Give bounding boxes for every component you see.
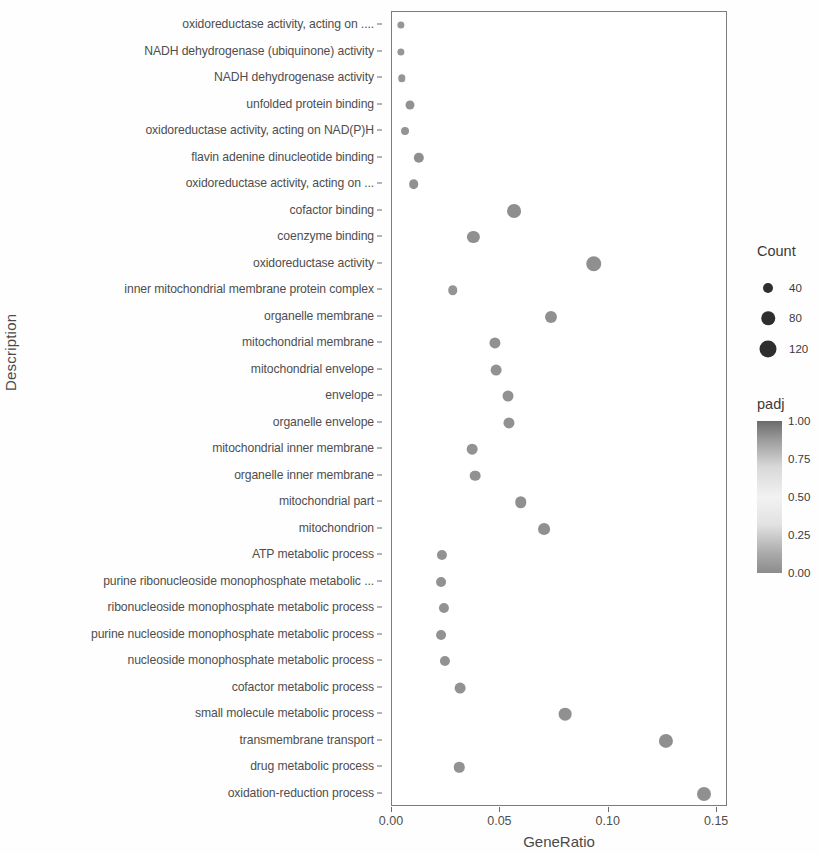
data-point xyxy=(467,231,479,243)
data-point xyxy=(414,153,424,163)
data-point xyxy=(448,285,458,295)
y-axis-tick-label: mitochondrial inner membrane xyxy=(212,441,374,455)
y-axis-tick-mark xyxy=(377,527,382,528)
data-point xyxy=(436,577,446,587)
y-axis-tick-mark xyxy=(377,368,382,369)
y-axis-tick-label: small molecule metabolic process xyxy=(195,706,374,720)
y-axis-tick-label: mitochondrial envelope xyxy=(251,362,374,376)
y-axis-tick-mark xyxy=(377,315,382,316)
y-axis-tick-label: coenzyme binding xyxy=(277,229,374,243)
legend-count-swatch xyxy=(760,341,777,358)
legend-padj-title: padj xyxy=(757,396,784,412)
y-axis-tick-label: organelle envelope xyxy=(273,415,374,429)
y-axis-tick-label: drug metabolic process xyxy=(250,759,374,773)
data-point xyxy=(436,630,446,640)
data-point xyxy=(502,391,513,402)
y-axis-tick-mark xyxy=(377,501,382,502)
y-axis-tick-mark xyxy=(377,633,382,634)
y-axis-tick-mark xyxy=(377,474,382,475)
y-axis-tick-label: inner mitochondrial membrane protein com… xyxy=(124,282,374,296)
y-axis-tick-label: organelle membrane xyxy=(264,309,374,323)
legend-padj-tick-label: 0.50 xyxy=(788,491,810,503)
data-point xyxy=(405,100,414,109)
legend-padj-tick-label: 0.00 xyxy=(788,567,810,579)
padj-colorbar xyxy=(757,421,782,573)
y-axis-tick-mark xyxy=(377,183,382,184)
y-axis-tick-mark xyxy=(377,766,382,767)
y-axis-title: Description xyxy=(2,271,22,391)
x-axis-tick-label: 0.15 xyxy=(704,814,728,828)
plot-panel xyxy=(391,11,727,806)
legend-count-swatch xyxy=(761,311,775,325)
y-axis-tick-label: mitochondrion xyxy=(299,521,374,535)
legend-padj-tick-label: 0.25 xyxy=(788,529,810,541)
data-point xyxy=(398,75,405,82)
legend-count-swatch xyxy=(763,283,773,293)
y-axis-tick-label: mitochondrial membrane xyxy=(242,335,374,349)
x-axis-tick-mark xyxy=(499,807,500,812)
y-axis-tick-label: cofactor metabolic process xyxy=(232,680,374,694)
y-axis-tick-label: cofactor binding xyxy=(290,203,374,217)
y-axis-tick-label: oxidoreductase activity, acting on NAD(P… xyxy=(145,123,374,137)
y-axis-tick-mark xyxy=(377,77,382,78)
legend-count-title: Count xyxy=(757,243,796,259)
y-axis-tick-label: NADH dehydrogenase (ubiquinone) activity xyxy=(144,44,374,58)
y-axis-tick-mark xyxy=(377,103,382,104)
data-point xyxy=(397,48,404,55)
data-point xyxy=(659,734,673,748)
y-axis-tick-mark xyxy=(377,660,382,661)
legend-count-label: 40 xyxy=(789,282,802,294)
data-point xyxy=(515,497,526,508)
legend-padj-tick-label: 1.00 xyxy=(788,415,810,427)
y-axis-tick-mark xyxy=(377,607,382,608)
x-axis-tick-label: 0.00 xyxy=(379,814,403,828)
data-point xyxy=(397,22,404,29)
y-axis-tick-mark xyxy=(377,289,382,290)
x-axis-tick-label: 0.05 xyxy=(487,814,511,828)
data-point xyxy=(409,179,419,189)
legend-count-label: 80 xyxy=(789,312,802,324)
data-point xyxy=(467,444,478,455)
y-axis-tick-mark xyxy=(377,713,382,714)
data-point xyxy=(489,338,500,349)
x-axis-tick-mark xyxy=(716,807,717,812)
y-axis-tick-labels: oxidoreductase activity, acting on ....N… xyxy=(30,11,382,806)
y-axis-tick-label: oxidoreductase activity, acting on ... xyxy=(186,176,374,190)
data-point xyxy=(455,682,466,693)
y-axis-tick-label: ribonucleoside monophosphate metabolic p… xyxy=(108,600,374,614)
y-axis-tick-label: flavin adenine dinucleotide binding xyxy=(191,150,374,164)
y-axis-tick-label: nucleoside monophosphate metabolic proce… xyxy=(128,653,374,667)
y-axis-tick-mark xyxy=(377,342,382,343)
data-point xyxy=(697,787,711,801)
data-point xyxy=(491,364,502,375)
y-axis-tick-mark xyxy=(377,130,382,131)
y-axis-tick-label: oxidoreductase activity xyxy=(253,256,374,270)
data-point xyxy=(559,708,572,721)
data-point xyxy=(401,127,409,135)
x-axis-title: GeneRatio xyxy=(391,833,727,850)
dotplot-figure: Description oxidoreductase activity, act… xyxy=(0,0,821,854)
data-point xyxy=(504,417,515,428)
x-axis-tick-mark xyxy=(608,807,609,812)
x-axis-tick-mark xyxy=(391,807,392,812)
data-point xyxy=(439,603,449,613)
y-axis-tick-mark xyxy=(377,421,382,422)
y-axis-tick-mark xyxy=(377,686,382,687)
y-axis-tick-mark xyxy=(377,739,382,740)
y-axis-tick-label: envelope xyxy=(325,388,374,402)
y-axis-tick-mark xyxy=(377,580,382,581)
y-axis-tick-label: NADH dehydrogenase activity xyxy=(214,70,374,84)
y-axis-tick-mark xyxy=(377,395,382,396)
y-axis-tick-mark xyxy=(377,156,382,157)
x-axis-tick-label: 0.10 xyxy=(596,814,620,828)
legend-count-label: 120 xyxy=(789,343,808,355)
y-axis-tick-label: purine nucleoside monophosphate metaboli… xyxy=(91,627,374,641)
legend-padj-tick-label: 0.75 xyxy=(788,453,810,465)
y-axis-tick-mark xyxy=(377,554,382,555)
data-point xyxy=(470,470,481,481)
y-axis-tick-mark xyxy=(377,236,382,237)
y-axis-tick-label: purine ribonucleoside monophosphate meta… xyxy=(103,574,374,588)
data-point xyxy=(437,550,447,560)
y-axis-tick-mark xyxy=(377,24,382,25)
y-axis-tick-label: unfolded protein binding xyxy=(246,97,374,111)
